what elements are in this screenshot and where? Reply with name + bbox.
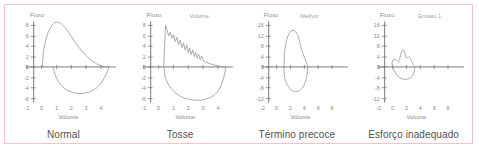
y-tick-label: -8 xyxy=(375,85,380,91)
panel-tosse: Fluxo Volume 8 6 xyxy=(122,5,239,143)
y-tick-label: -6 xyxy=(24,96,29,102)
inspiratory-curve xyxy=(53,67,109,94)
chart-svg: Fluxo Volume 8 6 xyxy=(122,5,239,121)
y-tick-label: 8 xyxy=(260,43,263,49)
x-tick-label: 0 xyxy=(275,105,278,111)
panel-caption: Término precoce xyxy=(239,129,356,140)
y-tick-label: 8 xyxy=(142,22,145,28)
chart-svg: Fluxo Ensaio 1 16 12 xyxy=(355,5,472,121)
x-tick-label: 4 xyxy=(99,105,102,111)
inspiratory-curve xyxy=(164,67,226,100)
x-tick-label: 2 xyxy=(187,105,190,111)
panel-header-label: Melhor xyxy=(300,13,318,19)
y-tick-marks xyxy=(265,25,270,98)
y-tick-label: 8 xyxy=(26,22,29,28)
y-tick-label: 4 xyxy=(26,43,29,49)
y-tick-label: 6 xyxy=(142,33,145,39)
y-axis-title: Fluxo xyxy=(30,12,45,18)
x-tick-label: 2 xyxy=(405,105,408,111)
y-tick-label: 16 xyxy=(257,22,263,28)
x-tick-label: 3 xyxy=(201,105,204,111)
y-tick-label: 16 xyxy=(374,22,380,28)
y-tick-label: 2 xyxy=(142,54,145,60)
inspiratory-curve xyxy=(283,67,307,92)
y-tick-label: -12 xyxy=(372,96,380,102)
chart-svg: Fluxo Melhor 16 12 xyxy=(239,5,356,121)
x-axis-title: Volume xyxy=(175,114,195,120)
y-tick-label: 2 xyxy=(26,54,29,60)
panel-header-label: Volume xyxy=(189,13,209,19)
inspiratory-curve xyxy=(393,67,415,79)
y-tick-label: -4 xyxy=(141,85,146,91)
y-tick-marks xyxy=(147,25,152,98)
x-tick-label: 6 xyxy=(316,105,319,111)
x-tick-label: 3 xyxy=(85,105,88,111)
y-axis-title: Fluxo xyxy=(146,12,161,18)
y-tick-label: -2 xyxy=(141,75,146,81)
x-tick-label: 0 xyxy=(391,105,394,111)
y-tick-label: 6 xyxy=(26,33,29,39)
chart-svg: Fluxo 8 6 xyxy=(5,5,122,121)
panel-normal: Fluxo 8 6 xyxy=(5,5,122,143)
x-axis-title: Volume xyxy=(58,114,78,120)
y-axis-title: Fluxo xyxy=(380,12,395,18)
panel-header-label: Ensaio 1 xyxy=(419,13,442,19)
y-tick-label: 4 xyxy=(377,54,380,60)
x-tick-label: 2 xyxy=(70,105,73,111)
y-tick-label: 0 xyxy=(142,64,145,70)
y-tick-label: -4 xyxy=(375,75,380,81)
y-tick-label: -8 xyxy=(258,85,263,91)
x-axis-title: Volume xyxy=(407,114,427,120)
x-tick-label: -1 xyxy=(24,105,29,111)
expiratory-curve xyxy=(164,25,226,67)
y-tick-label: 4 xyxy=(260,54,263,60)
y-tick-label: -6 xyxy=(141,96,146,102)
y-tick-label: 8 xyxy=(377,43,380,49)
y-tick-label: 0 xyxy=(26,64,29,70)
y-tick-label: 0 xyxy=(377,64,380,70)
panel-caption: Normal xyxy=(5,129,122,140)
x-tick-label: 4 xyxy=(216,105,219,111)
x-tick-label: 0 xyxy=(40,105,43,111)
flow-volume-chart-normal: Fluxo 8 6 xyxy=(5,5,122,121)
expiratory-curve xyxy=(42,22,109,67)
x-tick-label: -2 xyxy=(260,105,265,111)
y-tick-label: -2 xyxy=(24,75,29,81)
y-tick-label: -12 xyxy=(255,96,263,102)
expiratory-curve xyxy=(392,50,415,67)
x-tick-label: 0 xyxy=(157,105,160,111)
panel-esforco-inadequado: Fluxo Ensaio 1 16 12 xyxy=(355,5,472,143)
x-tick-label: 4 xyxy=(302,105,305,111)
expiratory-curve xyxy=(283,30,307,67)
x-tick-label: -2 xyxy=(377,105,382,111)
flow-volume-chart-esforco-inadequado: Fluxo Ensaio 1 16 12 xyxy=(355,5,472,121)
x-tick-label: -1 xyxy=(141,105,146,111)
figure-frame: Fluxo 8 6 xyxy=(4,4,473,144)
y-tick-label: -4 xyxy=(24,85,29,91)
y-tick-label: 12 xyxy=(257,33,263,39)
y-tick-label: 4 xyxy=(142,43,145,49)
y-tick-marks xyxy=(31,25,36,98)
x-axis-title: Volume xyxy=(290,114,310,120)
x-tick-label: 8 xyxy=(447,105,450,111)
flow-volume-chart-tosse: Fluxo Volume 8 6 xyxy=(122,5,239,121)
panel-row: Fluxo 8 6 xyxy=(5,5,472,143)
x-tick-label: 1 xyxy=(172,105,175,111)
y-tick-label: 0 xyxy=(260,64,263,70)
panel-caption: Esforço inadequado xyxy=(355,129,472,140)
panel-caption: Tosse xyxy=(122,129,239,140)
y-axis-title: Fluxo xyxy=(263,12,278,18)
y-tick-label: 12 xyxy=(374,33,380,39)
panel-termino-precoce: Fluxo Melhor 16 12 xyxy=(239,5,356,143)
x-tick-label: 4 xyxy=(419,105,422,111)
x-tick-label: 2 xyxy=(288,105,291,111)
y-tick-marks xyxy=(382,25,387,98)
x-tick-label: 1 xyxy=(55,105,58,111)
x-tick-label: 8 xyxy=(330,105,333,111)
flow-volume-chart-termino-precoce: Fluxo Melhor 16 12 xyxy=(239,5,356,121)
x-tick-label: 6 xyxy=(433,105,436,111)
y-tick-label: -4 xyxy=(258,75,263,81)
